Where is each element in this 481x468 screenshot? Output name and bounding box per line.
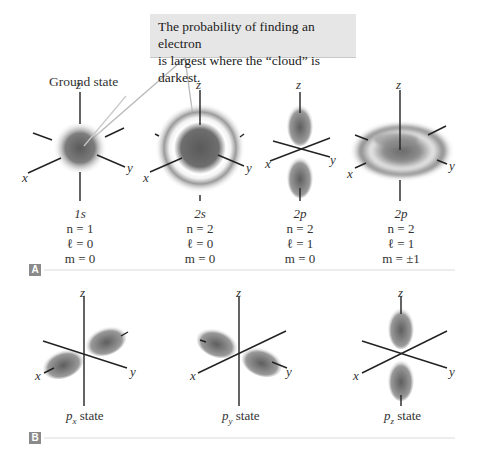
n-value: n = 2 — [382, 221, 420, 236]
callout-box: The probability of finding an electron i… — [150, 14, 356, 58]
axis-x-label: x — [143, 170, 149, 186]
l-value: ℓ = 1 — [382, 236, 420, 251]
m-value: m = 0 — [65, 251, 95, 266]
axis-x-label: x — [35, 368, 41, 384]
n-value: n = 2 — [285, 221, 315, 236]
n-value: n = 2 — [185, 221, 215, 236]
axis-z-label: z — [236, 285, 241, 301]
orbital-name: 2s — [185, 206, 215, 221]
l-value: ℓ = 0 — [185, 236, 215, 251]
orbital-name: 2p — [285, 206, 315, 221]
m-value: m = 0 — [185, 251, 215, 266]
state-suffix: state — [394, 408, 421, 423]
axis-y-label: y — [449, 364, 455, 380]
orbital-2s — [150, 90, 245, 201]
py-state-label: py state — [222, 408, 260, 426]
orbital-name: 1s — [65, 206, 95, 221]
n-value: n = 1 — [65, 221, 95, 236]
orbital-py — [192, 296, 287, 406]
orbital-2s-quantum-numbers: 2s n = 2 ℓ = 0 m = 0 — [185, 206, 215, 266]
panel-b-label: B — [29, 432, 41, 444]
orbital-px — [38, 296, 130, 406]
state-suffix: state — [77, 408, 104, 423]
axis-x-label: x — [190, 368, 196, 384]
axis-z-label: z — [296, 77, 301, 93]
orbital-2p-m0 — [270, 92, 330, 201]
ground-state-heading: Ground state — [49, 74, 118, 90]
axis-z-label: z — [396, 77, 401, 93]
pz-state-label: pz state — [384, 408, 421, 426]
axis-y-label: y — [246, 160, 252, 176]
orbital-pz — [362, 296, 447, 406]
axis-y-label: y — [127, 160, 133, 176]
m-value: m = 0 — [285, 251, 315, 266]
orbital-1s — [28, 92, 126, 201]
px-state-label: px state — [66, 408, 104, 426]
axis-z-label: z — [196, 77, 201, 93]
axis-z-label: z — [76, 77, 81, 93]
orbital-name: 2p — [382, 206, 420, 221]
callout-line-1: The probability of finding an electron — [158, 18, 348, 52]
axis-x-label: x — [353, 368, 359, 384]
orbital-1s-quantum-numbers: 1s n = 1 ℓ = 0 m = 0 — [65, 206, 95, 266]
orbital-2p-m0-quantum-numbers: 2p n = 2 ℓ = 1 m = 0 — [285, 206, 315, 266]
callout-line-2: is largest where the “cloud” is darkest. — [158, 52, 348, 86]
state-suffix: state — [233, 408, 260, 423]
axis-y-label: y — [286, 364, 292, 380]
axis-x-label: x — [22, 170, 28, 186]
axis-z-label: z — [398, 285, 403, 301]
axis-x-label: x — [265, 156, 271, 172]
axis-y-label: y — [449, 158, 455, 174]
panel-a-label: A — [29, 264, 41, 276]
axis-y-label: y — [130, 364, 136, 380]
axis-z-label: z — [80, 285, 85, 301]
orbital-2p-m1-quantum-numbers: 2p n = 2 ℓ = 1 m = ±1 — [382, 206, 420, 266]
l-value: ℓ = 1 — [285, 236, 315, 251]
m-value: m = ±1 — [382, 251, 420, 266]
l-value: ℓ = 0 — [65, 236, 95, 251]
orbital-2p-m1 — [350, 90, 454, 201]
axis-y-label: y — [330, 152, 336, 168]
axis-x-label: x — [347, 166, 353, 182]
